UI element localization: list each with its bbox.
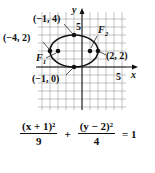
plus-sign: +	[64, 128, 70, 140]
leader-bottom	[66, 69, 72, 75]
label-point-bottom: (−1, 0)	[32, 73, 59, 85]
y-tick-label-5: 5	[76, 21, 81, 32]
y-axis-label: y	[71, 4, 77, 15]
equals-one: = 1	[122, 128, 137, 140]
ellipse-graph: x y 5 5 (−1, 4) (−4, 2) (2, 2) (−1, 0) F…	[0, 0, 155, 118]
leader-top	[64, 24, 72, 33]
y-term-numerator: (y − 2)²	[78, 120, 115, 134]
label-point-left: (−4, 2)	[3, 32, 30, 44]
x-tick-label-5: 5	[116, 71, 121, 82]
fraction-x-term: (x + 1)² 9	[20, 120, 57, 147]
point-top	[72, 33, 77, 38]
x-term-numerator: (x + 1)²	[20, 120, 57, 134]
focus-1	[56, 49, 61, 54]
point-left	[48, 49, 53, 54]
label-point-top: (−1, 4)	[33, 13, 60, 25]
y-axis-arrow-icon	[80, 8, 85, 14]
focus-2	[88, 49, 93, 54]
point-bottom	[72, 65, 77, 70]
y-term-denominator: 4	[94, 134, 100, 147]
point-right	[96, 49, 101, 54]
label-point-right: (2, 2)	[106, 50, 128, 62]
ellipse-equation: (x + 1)² 9 + (y − 2)² 4 = 1	[18, 120, 142, 147]
label-focus-2: F2	[97, 24, 109, 38]
fraction-y-term: (y − 2)² 4	[78, 120, 115, 147]
x-term-denominator: 9	[36, 134, 42, 147]
label-focus-1: F1	[35, 52, 46, 66]
x-axis-label: x	[130, 69, 136, 80]
